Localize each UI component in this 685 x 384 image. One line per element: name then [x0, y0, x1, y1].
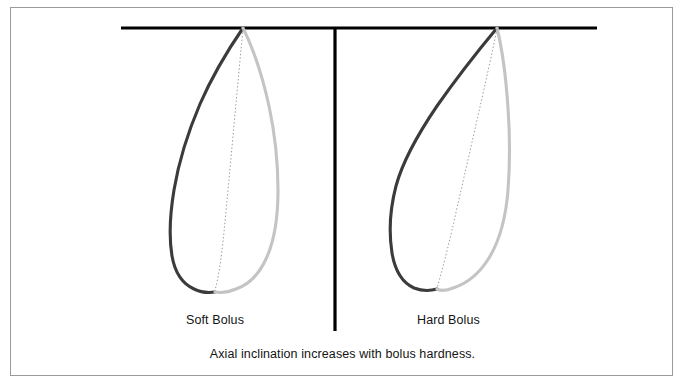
soft-tooth-light-contour [215, 28, 278, 292]
soft-bolus-label: Soft Bolus [186, 313, 244, 327]
hard-bolus-label: Hard Bolus [417, 313, 480, 327]
soft-tooth-dark-contour [170, 28, 243, 292]
hard-tooth-light-contour [437, 28, 510, 290]
tooth-inclination-diagram [0, 0, 685, 384]
hard-bolus-tooth [390, 28, 509, 290]
figure-caption: Axial inclination increases with bolus h… [0, 347, 685, 361]
soft-bolus-tooth [170, 28, 278, 292]
hard-tooth-dark-contour [390, 28, 497, 290]
figure-root: Soft Bolus Hard Bolus Axial inclination … [0, 0, 685, 384]
